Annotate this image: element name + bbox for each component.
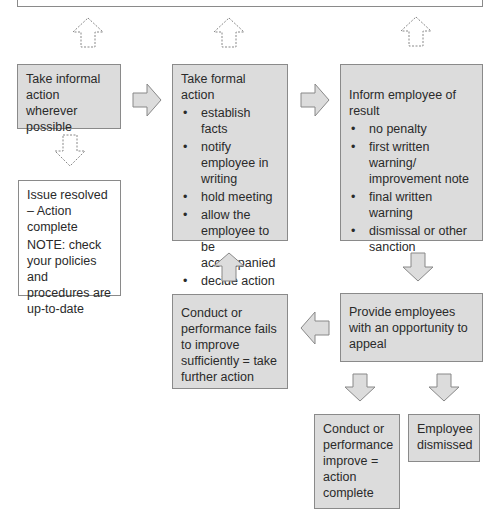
list-item: establish facts xyxy=(195,105,279,137)
node-inform-result: Inform employee of result no penalty fir… xyxy=(340,64,483,241)
node-improve-complete: Conduct or performance improve = action … xyxy=(314,414,400,509)
down-arrow-icon xyxy=(402,252,434,282)
node-dismissed-text: Employee dismissed xyxy=(417,422,473,452)
list-item: notify employee in writing xyxy=(195,139,279,187)
list-item: final written warning xyxy=(363,189,474,221)
dashed-up-arrow-icon xyxy=(72,17,104,48)
left-arrow-icon xyxy=(300,311,330,345)
node-formal-action: Take formal action establish facts notif… xyxy=(172,64,288,241)
node-informal-text: Take informal action wherever possible xyxy=(26,72,100,134)
list-item: dismissal or other sanction xyxy=(363,223,474,255)
dashed-down-arrow-icon xyxy=(54,134,86,167)
down-arrow-icon xyxy=(428,373,460,402)
node-appeal: Provide employees with an opportunity to… xyxy=(340,293,483,362)
node-resolved-text: Issue resolved – Action complete xyxy=(27,187,112,235)
node-issue-resolved: Issue resolved – Action complete NOTE: c… xyxy=(18,180,121,296)
list-item: first written warning/ improvement note xyxy=(363,139,474,187)
node-appeal-text: Provide employees with an opportunity to… xyxy=(349,305,468,351)
right-arrow-icon xyxy=(300,83,330,117)
node-fails-text: Conduct or performance fails to improve … xyxy=(181,306,277,384)
dashed-up-arrow-icon xyxy=(400,16,432,47)
down-arrow-icon xyxy=(344,373,376,402)
node-inform-title: Inform employee of result xyxy=(349,87,474,119)
node-employee-dismissed: Employee dismissed xyxy=(408,414,480,462)
node-fails-to-improve: Conduct or performance fails to improve … xyxy=(172,294,288,389)
top-box-cropped xyxy=(17,0,483,7)
node-informal-action: Take informal action wherever possible xyxy=(17,64,121,129)
node-formal-title: Take formal action xyxy=(181,71,279,103)
up-arrow-icon xyxy=(213,252,245,282)
inform-result-list: no penalty first written warning/ improv… xyxy=(349,121,474,255)
list-item: no penalty xyxy=(363,121,474,137)
right-arrow-icon xyxy=(132,83,162,117)
node-improve-text: Conduct or performance improve = action … xyxy=(323,422,393,500)
dashed-up-arrow-icon xyxy=(213,17,245,48)
node-resolved-note: NOTE: check your policies and procedures… xyxy=(27,237,112,317)
list-item: hold meeting xyxy=(195,189,279,205)
